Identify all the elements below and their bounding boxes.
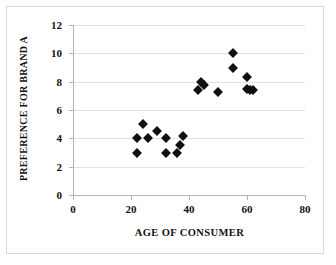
y-axis-tick xyxy=(69,53,73,54)
y-axis-tick xyxy=(69,82,73,83)
y-axis-tick-label: 12 xyxy=(40,20,62,30)
gridline-horizontal xyxy=(73,25,305,26)
scatter-chart: AGE OF CONSUMER PREFERENCE FOR BRAND A 0… xyxy=(0,0,336,265)
y-axis-tick-label: 4 xyxy=(40,133,62,143)
x-axis-tick xyxy=(189,196,190,200)
gridline-horizontal xyxy=(73,138,305,139)
y-axis-tick xyxy=(69,167,73,168)
x-axis-tick-label: 40 xyxy=(174,204,204,214)
y-axis-tick xyxy=(69,25,73,26)
gridline-horizontal xyxy=(73,110,305,111)
plot-area xyxy=(73,25,305,195)
x-axis-tick xyxy=(305,196,306,200)
gridline-horizontal xyxy=(73,167,305,168)
y-axis-tick xyxy=(69,138,73,139)
y-axis-tick-label: 10 xyxy=(40,48,62,58)
x-axis-tick-label: 60 xyxy=(232,204,262,214)
y-axis-line xyxy=(73,25,74,196)
gridline-horizontal xyxy=(73,82,305,83)
y-axis-title: PREFERENCE FOR BRAND A xyxy=(18,34,29,184)
x-axis-tick-label: 0 xyxy=(58,204,88,214)
x-axis-tick xyxy=(131,196,132,200)
gridline-horizontal xyxy=(73,53,305,54)
x-axis-tick xyxy=(73,196,74,200)
y-axis-tick-label: 0 xyxy=(40,190,62,200)
y-axis-tick-label: 8 xyxy=(40,77,62,87)
y-axis-tick xyxy=(69,110,73,111)
x-axis-tick xyxy=(247,196,248,200)
x-axis-tick-label: 20 xyxy=(116,204,146,214)
y-axis-tick-label: 6 xyxy=(40,105,62,115)
y-axis-tick-label: 2 xyxy=(40,162,62,172)
x-axis-tick-label: 80 xyxy=(290,204,320,214)
x-axis-title: AGE OF CONSUMER xyxy=(73,227,306,238)
